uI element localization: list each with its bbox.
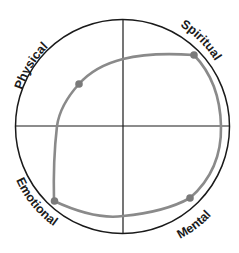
wellness-quadrant-chart: Physical Spiritual Emotional Mental [0,0,239,253]
data-point-mental [186,194,194,202]
data-point-spiritual [190,51,198,59]
data-point-physical [75,80,83,88]
label-physical: Physical [12,39,51,91]
label-mental: Mental [175,208,214,242]
series-curve [54,54,221,217]
data-point-emotional [51,197,59,205]
